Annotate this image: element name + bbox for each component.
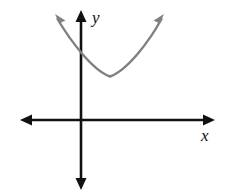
x-axis-label: x bbox=[200, 126, 209, 145]
figure-background bbox=[0, 0, 232, 195]
y-axis-label: y bbox=[90, 8, 100, 27]
graph-figure: y x bbox=[0, 0, 232, 195]
coordinate-plane-svg: y x bbox=[0, 0, 232, 195]
